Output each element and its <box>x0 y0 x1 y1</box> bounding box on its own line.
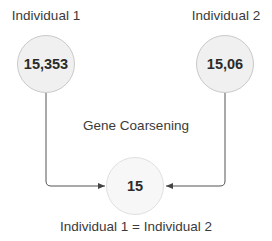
individual2-value: 15,06 <box>207 56 243 72</box>
result-value: 15 <box>127 178 143 194</box>
individual2-node: 15,06 <box>196 35 254 93</box>
edge-individual2-to-result <box>166 93 225 186</box>
individual1-node: 15,353 <box>17 35 75 93</box>
process-label: Gene Coarsening <box>83 118 189 133</box>
result-node: 15 <box>106 157 164 215</box>
individual2-title: Individual 2 <box>192 8 260 23</box>
individual1-title: Individual 1 <box>12 8 80 23</box>
edge-individual1-to-result <box>46 93 105 186</box>
result-caption: Individual 1 = Individual 2 <box>60 219 212 234</box>
individual1-value: 15,353 <box>24 56 68 72</box>
